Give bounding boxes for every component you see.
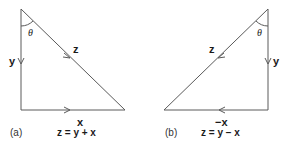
angle-arc-a [21,21,33,26]
vector-label-z-a: z [73,44,79,55]
triangle-a [18,9,125,113]
triangle-b [164,9,271,113]
vector-z-b [164,9,268,110]
vector-diagram [0,0,287,149]
equation-a: z = y + x [57,128,96,138]
vector-z-a [21,9,125,110]
vector-label-z-b: z [209,44,215,55]
panel-label-b: (b) [165,128,177,138]
panel-label-a: (a) [10,128,22,138]
vector-label-y-a: y [9,56,15,67]
angle-arc-b [256,21,268,26]
angle-label-a: θ [28,28,33,38]
equation-b: z = y − x [201,128,240,138]
angle-label-b: θ [257,28,262,38]
vector-label-y-b: y [273,56,279,67]
